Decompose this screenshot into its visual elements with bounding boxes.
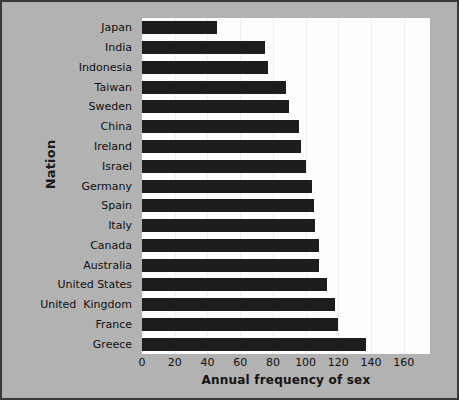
x-axis-tick-label: 80 [266, 356, 280, 369]
bar-row [142, 314, 430, 334]
bar-row [142, 275, 430, 295]
bar-row [142, 58, 430, 78]
bar [142, 318, 338, 331]
bar-row [142, 255, 430, 275]
y-axis-tick-label: Italy [28, 216, 138, 236]
y-axis-tick-label: France [28, 314, 138, 334]
y-axis-tick-label: Spain [28, 196, 138, 216]
bar-series [142, 18, 430, 354]
bar [142, 81, 286, 94]
plot-area [142, 18, 430, 354]
bar [142, 160, 306, 173]
y-axis-tick-label: Germany [28, 176, 138, 196]
y-axis-tick-label: Indonesia [28, 58, 138, 78]
bar-row [142, 295, 430, 315]
bar-row [142, 18, 430, 38]
bar-row [142, 117, 430, 137]
chart-figure: the ground seemSome of theds of thence a… [0, 0, 459, 400]
x-axis-tick-label: 40 [200, 356, 214, 369]
bar [142, 21, 217, 34]
bar-row [142, 38, 430, 58]
y-axis-tick-label: India [28, 38, 138, 58]
bar [142, 298, 335, 311]
bar-row [142, 196, 430, 216]
bar-row [142, 156, 430, 176]
y-axis-tick-label: Taiwan [28, 77, 138, 97]
x-axis-tick-labels: 020406080100120140160 [142, 354, 430, 372]
bar-row [142, 235, 430, 255]
y-axis-tick-label: Sweden [28, 97, 138, 117]
bar [142, 199, 314, 212]
bar [142, 278, 327, 291]
bar [142, 180, 312, 193]
bar-row [142, 216, 430, 236]
bar [142, 338, 366, 351]
bar-row [142, 137, 430, 157]
x-axis-tick-label: 120 [328, 356, 349, 369]
x-axis-tick-label: 0 [139, 356, 146, 369]
bar [142, 41, 265, 54]
y-axis-tick-label: Ireland [28, 137, 138, 157]
bar-row [142, 77, 430, 97]
y-axis-tick-label: United Kingdom [28, 295, 138, 315]
y-axis-tick-label: Japan [28, 18, 138, 38]
bar-row [142, 176, 430, 196]
bar-row [142, 97, 430, 117]
bar [142, 120, 299, 133]
x-axis-title: Annual frequency of sex [142, 373, 430, 387]
bar [142, 219, 315, 232]
y-axis-tick-labels: JapanIndiaIndonesiaTaiwanSwedenChinaIrel… [28, 18, 138, 354]
bar [142, 259, 319, 272]
y-axis-tick-label: United States [28, 275, 138, 295]
bar [142, 140, 301, 153]
x-axis-tick-label: 140 [361, 356, 382, 369]
y-axis-tick-label: China [28, 117, 138, 137]
bar-row [142, 334, 430, 354]
y-axis-tick-label: Greece [28, 334, 138, 354]
x-axis-tick-label: 160 [393, 356, 414, 369]
x-axis-tick-label: 20 [168, 356, 182, 369]
y-axis-tick-label: Israel [28, 156, 138, 176]
bar [142, 61, 268, 74]
y-axis-tick-label: Canada [28, 235, 138, 255]
y-axis-tick-label: Australia [28, 255, 138, 275]
bar [142, 100, 289, 113]
x-axis-tick-label: 100 [295, 356, 316, 369]
bar [142, 239, 319, 252]
x-axis-tick-label: 60 [233, 356, 247, 369]
